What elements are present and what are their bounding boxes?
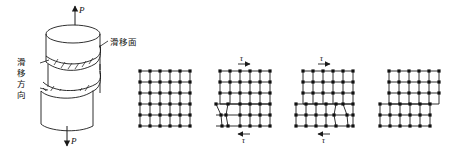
slip-and-dislocation-diagram: P <box>0 0 460 151</box>
svg-text:方: 方 <box>17 79 26 89</box>
lattice-stage-2: τ <box>214 54 271 145</box>
cylinder-lower-segment <box>41 91 93 131</box>
svg-text:滑: 滑 <box>17 57 26 67</box>
slip-plane-label: 滑移面 <box>110 37 137 47</box>
lattice-stage-3: τ <box>294 54 354 145</box>
shear-label-bottom: τ <box>242 136 246 145</box>
svg-text:移: 移 <box>17 68 26 78</box>
bottom-load-label: P <box>70 136 77 146</box>
shear-label-top: τ <box>320 54 324 63</box>
lattice-nodes <box>214 69 271 127</box>
specimen-group: P <box>17 5 137 146</box>
lattice-nodes <box>138 69 191 127</box>
figure-container: P <box>0 0 460 151</box>
svg-text:向: 向 <box>17 90 26 100</box>
lattice-stage-1 <box>138 69 191 127</box>
slip-direction-label: 滑 移 方 向 <box>17 57 26 100</box>
slip-band-upper <box>46 45 101 70</box>
shear-label-top: τ <box>240 54 244 63</box>
lattice-nodes <box>378 69 440 127</box>
lattice-stage-4 <box>378 69 440 127</box>
shear-label-bottom: τ <box>322 136 326 145</box>
top-load-label: P <box>78 5 85 15</box>
